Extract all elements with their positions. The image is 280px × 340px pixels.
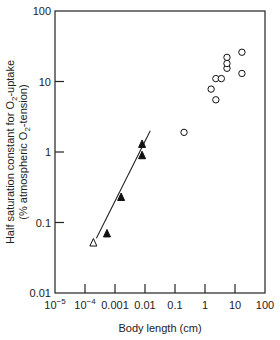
y-tick-label: 0.1 xyxy=(36,217,51,229)
x-axis-ticks: 10−510−40.0010.010.1110100 xyxy=(44,284,274,311)
circle-marker xyxy=(181,129,187,135)
y-axis-label-line2: (% atmospheric O2-tension) xyxy=(17,84,32,219)
circle-marker xyxy=(239,70,245,76)
circle-marker xyxy=(224,60,230,66)
circle-marker xyxy=(218,75,224,81)
x-tick-label: 10−4 xyxy=(74,297,96,311)
plot-border xyxy=(55,11,265,293)
plot-frame xyxy=(55,11,265,293)
x-tick-label: 100 xyxy=(256,299,274,311)
y-axis-label: Half saturation constant for O2-uptake (… xyxy=(4,60,32,244)
circle-marker xyxy=(224,54,230,60)
y-tick-label: 100 xyxy=(33,5,51,17)
circle-marker xyxy=(213,97,219,103)
data-points xyxy=(90,49,245,246)
y-tick-label: 10 xyxy=(39,76,51,88)
x-tick-label: 0.01 xyxy=(134,299,155,311)
x-tick-label: 0.001 xyxy=(101,299,129,311)
filled-triangle-marker xyxy=(103,229,110,237)
x-axis-label: Body length (cm) xyxy=(118,322,201,334)
y-axis-ticks: 0.010.1110100 xyxy=(30,5,64,299)
x-tick-label: 0.1 xyxy=(167,299,182,311)
open-triangle-marker xyxy=(90,239,97,247)
scatter-chart: 10−510−40.0010.010.1110100 0.010.1110100… xyxy=(0,0,280,340)
circle-marker xyxy=(239,49,245,55)
circle-marker xyxy=(208,86,214,92)
x-tick-label: 1 xyxy=(202,299,208,311)
x-tick-label: 10−5 xyxy=(44,297,66,311)
y-tick-label: 0.01 xyxy=(30,287,51,299)
x-tick-label: 10 xyxy=(229,299,241,311)
y-tick-label: 1 xyxy=(45,146,51,158)
